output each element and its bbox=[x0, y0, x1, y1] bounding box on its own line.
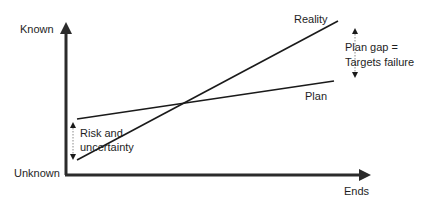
diagram-canvas bbox=[0, 0, 427, 205]
reality-label: Reality bbox=[294, 12, 328, 26]
plan-gap-arrow-up-icon bbox=[352, 28, 358, 34]
plan-gap-label-1: Plan gap = bbox=[345, 40, 398, 54]
risk-label-1: Risk and bbox=[80, 126, 123, 140]
plan-label: Plan bbox=[305, 89, 327, 103]
risk-label-2: uncertainty bbox=[80, 140, 134, 154]
x-axis-label: Ends bbox=[344, 184, 369, 198]
y-axis-bottom-label: Unknown bbox=[14, 166, 60, 180]
y-axis-arrow-icon bbox=[60, 22, 72, 34]
plan-gap-arrow-down-icon bbox=[352, 72, 358, 78]
plan-gap-label-2: Targets failure bbox=[345, 55, 414, 69]
x-axis-arrow-icon bbox=[359, 169, 371, 181]
y-axis-top-label: Known bbox=[20, 22, 54, 36]
plan-line bbox=[77, 81, 334, 119]
risk-arrow-down-icon bbox=[70, 154, 76, 160]
risk-arrow-up-icon bbox=[70, 122, 76, 128]
